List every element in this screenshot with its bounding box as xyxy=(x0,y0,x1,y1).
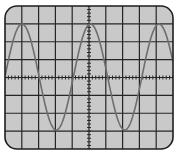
oscilloscope-display xyxy=(0,0,178,155)
